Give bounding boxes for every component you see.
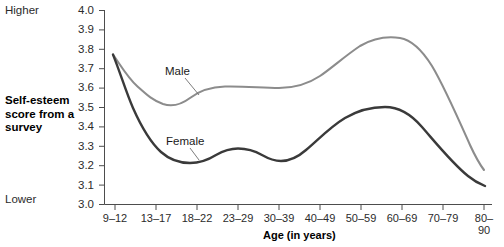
y-tick-label: 3.1 [68, 179, 94, 191]
y-tick-label: 3.6 [68, 81, 94, 93]
x-tick-label: 80–90 [474, 212, 494, 236]
y-tick-label: 4.0 [68, 4, 94, 16]
y-axis-ticks [99, 11, 105, 205]
series-line-male [113, 37, 484, 170]
x-tick-label: 70–79 [428, 212, 459, 224]
y-tick-label: 3.7 [68, 62, 94, 74]
x-tick-label: 40–49 [305, 212, 336, 224]
leader-line-male [185, 78, 199, 95]
y-axis-title: Self-esteem score from a survey [5, 94, 79, 135]
x-tick-label: 13–17 [141, 212, 172, 224]
y-axis-high-label: Higher [5, 4, 39, 16]
y-tick-label: 3.8 [68, 43, 94, 55]
leader-line-female [190, 148, 199, 160]
y-tick-label: 3.0 [68, 198, 94, 210]
y-axis-low-label: Lower [5, 193, 36, 205]
y-tick-label: 3.9 [68, 23, 94, 35]
chart-figure: 4.0 3.9 3.8 3.7 3.6 3.5 3.4 3.3 3.2 3.1 … [0, 0, 504, 247]
x-tick-label: 60–69 [387, 212, 418, 224]
x-tick-label: 23–29 [223, 212, 254, 224]
x-tick-label: 30–39 [264, 212, 295, 224]
series-label-female: Female [166, 135, 204, 147]
series-label-male: Male [165, 65, 190, 77]
y-tick-label: 3.2 [68, 159, 94, 171]
y-tick-label: 3.3 [68, 140, 94, 152]
x-tick-label: 50–59 [346, 212, 377, 224]
x-tick-label: 9–12 [103, 212, 127, 224]
x-axis-ticks [115, 205, 484, 211]
x-tick-label: 18–22 [182, 212, 213, 224]
x-axis-title: Age (in years) [263, 229, 336, 241]
